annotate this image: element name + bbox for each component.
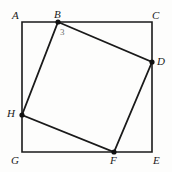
vertex-label-a: A xyxy=(12,10,19,21)
vertex-label-c: C xyxy=(152,10,159,21)
geometry-figure: A B C D E F G H 3 xyxy=(0,0,172,172)
vertex-label-d: D xyxy=(157,56,165,67)
vertex-label-b: B xyxy=(54,9,61,20)
figure-canvas xyxy=(0,0,172,172)
vertex-dot-d xyxy=(149,59,154,64)
vertex-label-h: H xyxy=(7,108,15,119)
figure-background xyxy=(0,0,172,172)
vertex-label-g: G xyxy=(11,155,19,166)
vertex-dot-b xyxy=(55,19,60,24)
vertex-dot-h xyxy=(19,112,24,117)
vertex-label-e: E xyxy=(153,155,160,166)
vertex-label-f: F xyxy=(110,155,117,166)
segment-measure-label: 3 xyxy=(60,28,65,37)
